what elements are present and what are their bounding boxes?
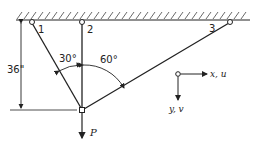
angle-label-60: 60°: [100, 54, 118, 65]
angle-label-30: 30°: [59, 53, 77, 64]
angle-arc-60: [83, 65, 124, 88]
support-label-1: 1: [38, 24, 44, 35]
truss-diagram: 1 2 3 36" 30° 60° P x, u y, v: [0, 0, 255, 150]
load-label: P: [89, 127, 97, 138]
load-node: [80, 108, 85, 113]
support-pin-1: [30, 20, 35, 25]
y-axis-label: y, v: [168, 104, 184, 114]
x-axis-label: x, u: [210, 69, 227, 79]
support-label-3: 3: [209, 23, 215, 34]
fixed-ceiling: [16, 12, 250, 20]
support-pin-2: [80, 20, 85, 25]
bar-3: [84, 23, 229, 109]
dimension-label: 36": [7, 64, 24, 75]
coordinate-axes: [176, 72, 207, 100]
support-label-2: 2: [87, 24, 93, 35]
angle-arc-30: [59, 65, 81, 71]
support-pin-3: [228, 20, 233, 25]
